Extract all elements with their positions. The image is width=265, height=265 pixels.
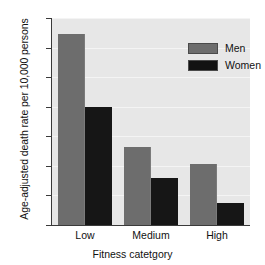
plot-area: Men Women <box>52 18 250 225</box>
x-axis-tick-label: Low <box>75 229 94 241</box>
chart-legend: Men Women <box>188 43 261 77</box>
bar-high-women <box>217 203 244 225</box>
gridline <box>52 18 250 19</box>
bar-chart-figure: Age-adjusted death rate per 10,000 perso… <box>0 0 265 265</box>
legend-item-men: Men <box>188 43 261 54</box>
legend-label-men: Men <box>225 43 245 54</box>
y-axis-tick <box>46 136 52 137</box>
y-axis-tick <box>46 166 52 167</box>
x-axis-line <box>51 225 250 226</box>
bar-medium-men <box>124 147 151 225</box>
bar-high-men <box>190 164 217 225</box>
bar-low-men <box>58 34 85 225</box>
x-axis-title: Fitness catetgory <box>0 248 265 260</box>
legend-swatch-women-icon <box>188 60 218 71</box>
y-axis-title: Age-adjusted death rate per 10,000 perso… <box>18 9 30 229</box>
y-axis-tick <box>46 77 52 78</box>
legend-item-women: Women <box>188 60 261 71</box>
x-axis-tick-label: High <box>206 229 228 241</box>
x-axis-tick-label: Medium <box>132 229 169 241</box>
y-axis-tick <box>46 195 52 196</box>
legend-label-women: Women <box>225 60 261 71</box>
y-axis-tick <box>46 48 52 49</box>
legend-swatch-men-icon <box>188 43 218 54</box>
bar-low-women <box>85 107 112 225</box>
y-axis-tick <box>46 18 52 19</box>
bar-medium-women <box>151 178 178 225</box>
y-axis-tick <box>46 225 52 226</box>
y-axis-tick <box>46 107 52 108</box>
